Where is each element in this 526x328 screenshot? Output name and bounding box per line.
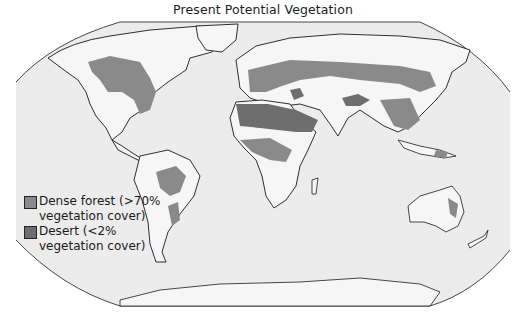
- legend-item-forest: Dense forest (>70% vegetation cover): [24, 194, 160, 224]
- legend-label: vegetation cover): [39, 239, 145, 254]
- legend: Dense forest (>70% vegetation cover) Des…: [24, 194, 160, 254]
- legend-label: Dense forest (>70%: [39, 194, 160, 209]
- legend-label: Desert (<2%: [39, 224, 145, 239]
- forest-swatch: [24, 196, 37, 209]
- legend-item-desert: Desert (<2% vegetation cover): [24, 224, 160, 254]
- world-vegetation-map: [0, 0, 526, 328]
- desert-swatch: [24, 226, 37, 239]
- legend-label: vegetation cover): [39, 209, 160, 224]
